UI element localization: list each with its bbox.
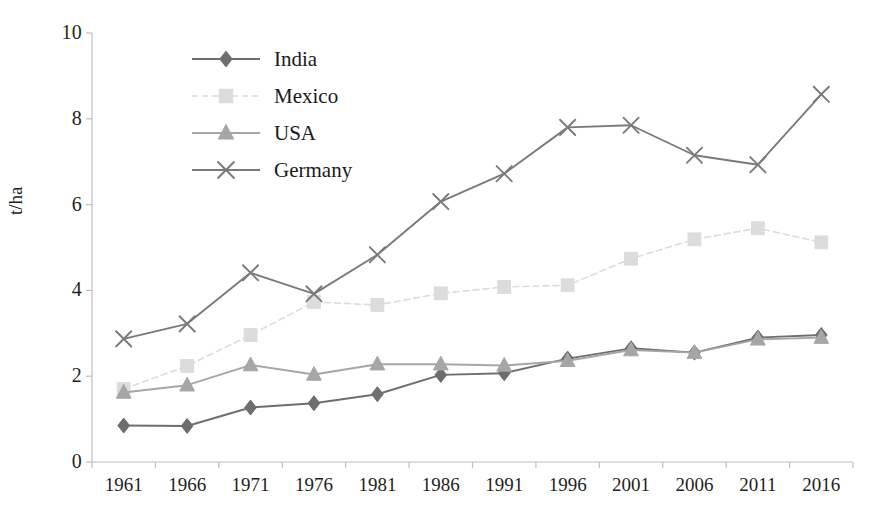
data-point-marker [371, 299, 384, 312]
data-point-marker [181, 418, 193, 433]
legend-label: India [274, 45, 317, 73]
data-point-marker [498, 281, 511, 294]
data-point-marker [372, 387, 384, 402]
data-point-marker [118, 418, 130, 433]
legend-item-india: India [190, 42, 400, 79]
data-point-marker [180, 316, 195, 331]
data-point-marker [815, 236, 828, 249]
data-point-marker [116, 331, 131, 346]
data-point-marker [370, 356, 385, 370]
legend-marker-triangle-icon [190, 116, 262, 150]
legend-label: Germany [274, 156, 352, 184]
data-point-marker [244, 329, 257, 342]
series-mexico [117, 222, 827, 396]
legend-label: Mexico [274, 82, 338, 110]
legend-item-germany: Germany [190, 153, 400, 190]
data-point-marker [370, 247, 385, 262]
data-point-marker [433, 356, 448, 370]
legend-label: USA [274, 119, 316, 147]
data-point-marker [243, 357, 258, 371]
series-india [118, 328, 827, 434]
legend-item-usa: USA [190, 116, 400, 153]
data-point-marker [434, 287, 447, 300]
data-point-marker [497, 166, 512, 181]
legend-marker-diamond-icon [190, 42, 262, 76]
data-point-marker [688, 233, 701, 246]
data-point-marker [243, 265, 258, 280]
data-point-marker [814, 87, 829, 102]
legend-marker-x-icon [190, 153, 262, 187]
chart-legend: IndiaMexicoUSAGermany [190, 42, 400, 190]
data-point-marker [308, 396, 320, 411]
chart-container: 0246810 t/ha 196119661971197619811986199… [0, 0, 878, 530]
data-point-marker [751, 222, 764, 235]
data-point-marker [433, 194, 448, 209]
plot-svg [0, 0, 878, 530]
data-point-marker [625, 252, 638, 265]
data-point-marker [245, 400, 257, 415]
legend-marker-square-icon [190, 79, 262, 113]
legend-item-mexico: Mexico [190, 79, 400, 116]
data-point-marker [561, 279, 574, 292]
series-usa [116, 330, 828, 399]
data-point-marker [181, 360, 194, 373]
